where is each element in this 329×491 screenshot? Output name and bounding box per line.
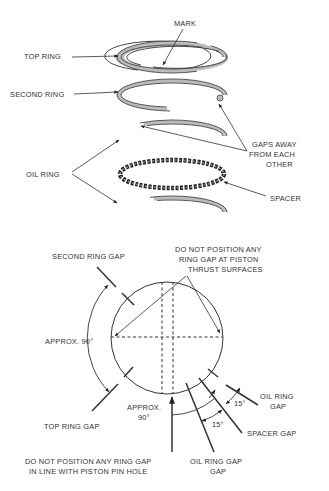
label-spacer: SPACER <box>270 194 301 203</box>
label-top-ring: TOP RING <box>24 52 61 61</box>
label-gaps-away-2: FROM EACH <box>249 150 295 159</box>
second-ring <box>117 79 227 111</box>
label-thrust-1: DO NOT POSITION ANY <box>175 245 262 254</box>
label-approx-90-left: APPROX. 90° <box>45 337 93 346</box>
label-angle-15-upper: 15° <box>234 399 246 408</box>
label-second-ring-gap: SECOND RING GAP <box>52 252 125 261</box>
label-approx-bottom-2: 90° <box>138 413 150 422</box>
label-oil-ring-gap-bottom-2: GAP <box>210 467 226 476</box>
label-gaps-away-3: OTHER <box>266 160 293 169</box>
label-spacer-gap: SPACER GAP <box>247 429 297 438</box>
label-oil-ring: OIL RING <box>26 170 60 179</box>
label-oil-ring-gap-right-1: OIL RING <box>260 392 294 401</box>
label-oil-ring-gap-right-2: GAP <box>270 402 286 411</box>
label-top-ring-gap: TOP RING GAP <box>44 422 100 431</box>
label-oil-ring-gap-bottom-1: OIL RING GAP <box>190 457 242 466</box>
label-approx-bottom-1: APPROX. <box>127 403 161 412</box>
label-pin-hole-1: DO NOT POSITION ANY RING GAP <box>25 457 151 466</box>
label-thrust-2: RING GAP AT PISTON <box>179 255 258 264</box>
label-angle-15-lower: 15° <box>212 420 224 429</box>
label-mark: MARK <box>174 19 196 28</box>
label-gaps-away-1: GAPS AWAY <box>252 140 297 149</box>
spacer <box>120 160 224 188</box>
top-ring <box>105 41 227 71</box>
label-thrust-3: THRUST SURFACES <box>188 265 263 274</box>
oil-ring-lower <box>117 196 227 228</box>
oil-ring-upper <box>117 120 227 152</box>
label-second-ring: SECOND RING <box>10 90 64 99</box>
label-pin-hole-2: IN LINE WITH PISTON PIN HOLE <box>29 467 147 476</box>
